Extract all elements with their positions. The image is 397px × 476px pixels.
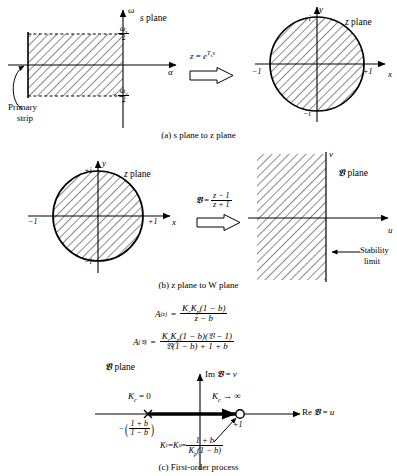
s-plane-diagram xyxy=(8,6,183,131)
z-plane-b-tick-right: +1 xyxy=(148,218,157,226)
caption-c: (c) First-order process xyxy=(0,462,397,472)
omega-s-neg-half-label: − ωs 2 xyxy=(112,87,129,104)
z-plane-a-tick-right: +1 xyxy=(363,68,372,76)
z-plane-b-tick-bottom: −i xyxy=(84,258,92,266)
kc-zero-label: Kc = 0 xyxy=(128,392,151,401)
s-plane-label: s plane xyxy=(140,14,167,24)
s-plane-omega-label: ω xyxy=(128,6,134,15)
stability-limit-line1: Stability xyxy=(360,246,389,255)
kc-infinity-label: Kc → ∞ xyxy=(212,392,241,401)
omega-s-half-label: ωs 2 xyxy=(118,25,129,42)
equation-aw: A(𝔙) = KcKp(1 − b)(𝔙 − 1) 𝔙(1 − b) + 1 +… xyxy=(133,332,234,352)
z-plane-b-x-label: x xyxy=(172,218,176,227)
zero-marker xyxy=(236,410,244,418)
z-plane-a-tick-bottom: −i xyxy=(303,110,311,118)
z-plane-diagram-a xyxy=(245,4,395,126)
w-plane-label: 𝔙 plane xyxy=(338,168,368,179)
z-plane-b-y-label: y xyxy=(102,159,106,168)
root-locus-diagram xyxy=(0,362,397,476)
re-w-axis-label: Re 𝔙 = u xyxy=(302,408,334,417)
s-to-z-arrow-icon xyxy=(189,67,235,87)
z-plane-a-tick-top: +i xyxy=(303,15,311,23)
z-plane-b-tick-top: +i xyxy=(84,167,92,175)
w-plane-v-label: v xyxy=(329,150,333,159)
ku-formula: Kc = Ku = 1 + b Kp(1 − b) xyxy=(160,436,223,455)
stability-limit-line2: limit xyxy=(364,257,380,266)
caption-a: (a) s plane to z plane xyxy=(0,130,397,140)
primary-strip-label-line2: strip xyxy=(17,114,33,123)
caption-b: (b) z plane to W plane xyxy=(0,280,397,290)
equation-az: A(z) = KcKp(1 − b) z − b xyxy=(155,304,227,324)
z-plane-a-tick-left: −1 xyxy=(252,68,261,76)
panel-c: 𝔙 plane Kc = 0 Kc → ∞ − ( 1 + b 1 − b xyxy=(0,362,397,476)
zero-value-label: +1 xyxy=(233,421,242,429)
im-w-axis-label: Im 𝔙 = v xyxy=(205,370,237,379)
panel-a: ω α s plane ωs 2 − ωs 2 Primary strip z … xyxy=(0,0,397,140)
s-plane-alpha-label: α xyxy=(168,68,173,77)
w-plane-u-label: u xyxy=(388,226,393,235)
z-to-w-arrow-icon xyxy=(196,214,242,234)
primary-strip-label-line1: Primary xyxy=(8,103,37,112)
z-plane-a-y-label: y xyxy=(319,5,323,14)
unstable-region xyxy=(257,154,326,280)
panel-b: y x z plane +i −i −1 +1 𝔙 = z − 1 z + 1 … xyxy=(0,152,397,292)
locus-direction-arrow xyxy=(222,409,236,420)
equations-block: A(z) = KcKp(1 − b) z − b A(𝔙) = KcKp(1 −… xyxy=(0,300,397,358)
z-plane-b-tick-left: −1 xyxy=(28,218,37,226)
s-to-z-transform-formula: z = eTss xyxy=(190,52,215,61)
z-to-w-transform-formula: 𝔙 = z − 1 z + 1 xyxy=(196,192,232,210)
z-plane-a-label: z plane xyxy=(345,18,372,28)
pole-value-label: − ( 1 + b 1 − b ) xyxy=(119,420,155,438)
z-plane-b-label: z plane xyxy=(124,170,151,180)
z-plane-a-x-label: x xyxy=(388,70,392,79)
